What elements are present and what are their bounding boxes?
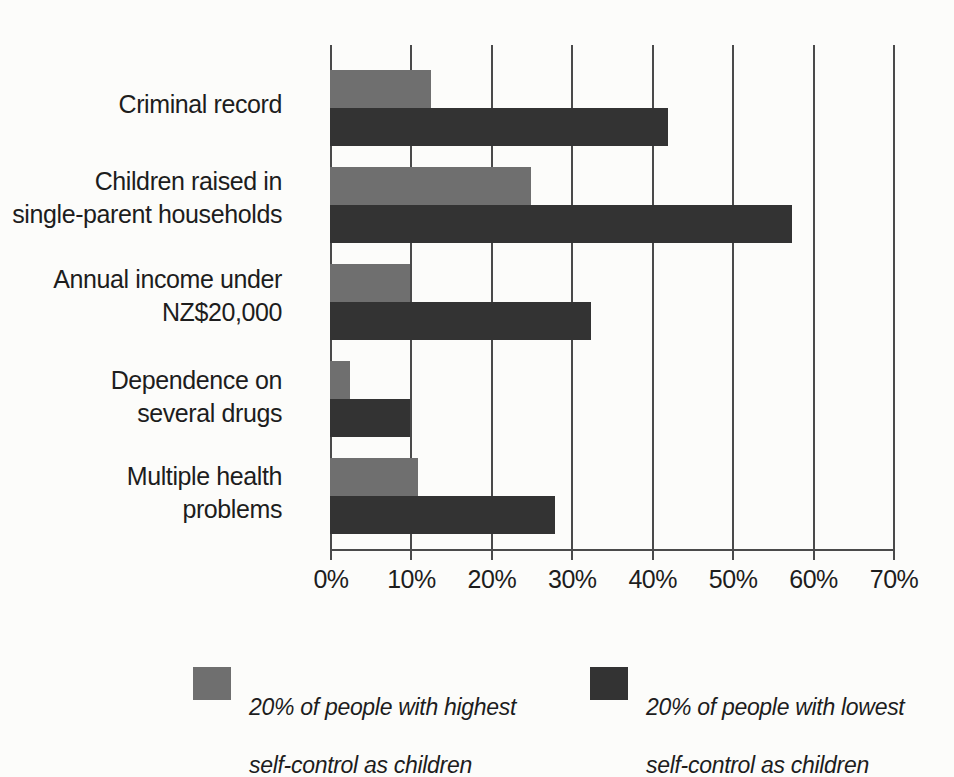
tick-mark-20% <box>491 549 493 560</box>
bar-highest-group-1 <box>330 70 431 108</box>
category-label-annual-income: Annual income under NZ$20,000 <box>53 263 282 329</box>
bar-highest-group-4 <box>330 361 350 399</box>
bar-highest-group-2 <box>330 167 531 205</box>
legend-line1-emph: highest <box>444 694 516 720</box>
bar-lowest-group-4 <box>330 399 410 437</box>
category-label-single-parent-households: Children raised in single-parent househo… <box>12 165 282 231</box>
tick-mark-30% <box>571 549 573 560</box>
legend-line1-prefix: 20% of people with <box>646 694 841 720</box>
legend-line1-emph: lowest <box>841 694 904 720</box>
legend-swatch-light <box>193 667 231 700</box>
bar-lowest-group-5 <box>330 496 555 534</box>
tick-label-70%: 70% <box>870 565 919 594</box>
gridline-60% <box>813 45 815 550</box>
legend-item-highest-self-control: 20% of people with highest self-control … <box>193 664 516 777</box>
x-axis-line <box>330 549 895 551</box>
legend-line1-prefix: 20% of people with <box>249 694 444 720</box>
plot-area <box>330 45 893 550</box>
tick-mark-0% <box>330 549 332 560</box>
gridline-70% <box>893 45 895 550</box>
tick-label-40%: 40% <box>628 565 677 594</box>
category-label-multiple-health-problems: Multiple health problems <box>127 460 282 526</box>
legend-line2: self-control as children <box>646 752 869 777</box>
category-label-criminal-record: Criminal record <box>119 88 282 121</box>
tick-label-50%: 50% <box>709 565 758 594</box>
bar-lowest-group-1 <box>330 108 668 146</box>
bar-highest-group-3 <box>330 264 410 302</box>
tick-mark-40% <box>652 549 654 560</box>
tick-label-20%: 20% <box>468 565 517 594</box>
bar-lowest-group-3 <box>330 302 591 340</box>
legend-item-lowest-self-control: 20% of people with lowest self-control a… <box>590 664 904 777</box>
tick-label-60%: 60% <box>789 565 838 594</box>
legend-label-highest: 20% of people with highest self-control … <box>249 664 516 777</box>
legend-swatch-dark <box>590 667 628 700</box>
gridline-50% <box>732 45 734 550</box>
tick-mark-50% <box>732 549 734 560</box>
tick-mark-60% <box>813 549 815 560</box>
tick-label-0%: 0% <box>313 565 348 594</box>
tick-mark-70% <box>893 549 895 560</box>
chart-legend: 20% of people with highest self-control … <box>0 660 954 740</box>
tick-mark-10% <box>410 549 412 560</box>
category-label-drug-dependence: Dependence on several drugs <box>111 364 282 430</box>
legend-line2: self-control as children <box>249 752 472 777</box>
tick-label-10%: 10% <box>387 565 436 594</box>
bar-highest-group-5 <box>330 458 418 496</box>
bar-lowest-group-2 <box>330 205 792 243</box>
tick-label-30%: 30% <box>548 565 597 594</box>
legend-label-lowest: 20% of people with lowest self-control a… <box>646 664 904 777</box>
